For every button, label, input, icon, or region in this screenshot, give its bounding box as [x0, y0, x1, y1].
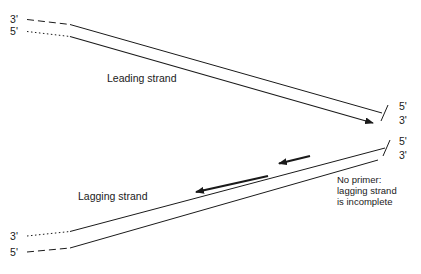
no-primer-note-line-1: No primer: — [337, 174, 381, 185]
bottom-template-dotted-segment — [27, 232, 70, 237]
top-template-dashed-segment — [27, 20, 70, 25]
end-label-right-lower-bottom: 3' — [399, 149, 407, 161]
no-primer-note-line-2: lagging strand — [337, 185, 397, 196]
leading-strand-label: Leading strand — [107, 72, 177, 84]
lagging-strand-label: Lagging strand — [78, 190, 148, 202]
leading-strand-dotted-segment — [27, 32, 70, 37]
diagram-canvas: 3' 5' 5' 3' 5' 3' 3' 5' Leading strand L… — [0, 0, 421, 274]
leading-strand-end-tick — [381, 105, 388, 121]
okazaki-fragment-arrow-long — [196, 176, 268, 192]
end-label-right-upper-bottom: 3' — [399, 114, 407, 126]
top-template-solid-line — [70, 25, 382, 114]
end-label-bottom-left-lower: 5' — [10, 246, 18, 258]
end-label-top-left-lower: 5' — [10, 25, 18, 37]
end-label-top-left-upper: 3' — [10, 13, 18, 25]
end-label-bottom-left-upper: 3' — [10, 230, 18, 242]
lagging-strand-solid-line — [70, 160, 378, 248]
end-label-right-upper-top: 5' — [399, 100, 407, 112]
no-primer-note-line-3: is incomplete — [337, 196, 392, 207]
lagging-strand-dashed-segment — [27, 248, 70, 252]
dna-replication-diagram: 3' 5' 5' 3' 5' 3' 3' 5' Leading strand L… — [0, 0, 421, 274]
okazaki-fragment-arrow-short — [279, 156, 310, 164]
end-label-right-lower-top: 5' — [399, 135, 407, 147]
